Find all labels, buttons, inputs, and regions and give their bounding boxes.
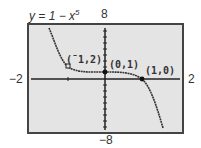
point-marker-0-1 (103, 70, 108, 75)
point-label-0-1: (0,1) (109, 59, 139, 71)
point-label-1-0: (1,0) (145, 65, 175, 77)
point-marker-1-0 (140, 77, 145, 82)
point-label-neg1-2: (ˉ1,2) (66, 54, 102, 66)
